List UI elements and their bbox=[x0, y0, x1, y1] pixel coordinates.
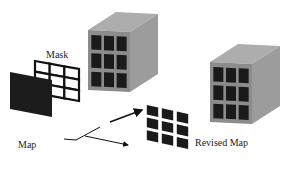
revised-map-cell bbox=[177, 137, 188, 149]
grid-cell bbox=[91, 72, 101, 87]
revised-map-cell bbox=[162, 108, 173, 120]
cube-front-grid bbox=[213, 67, 248, 120]
cube-front-grid bbox=[91, 35, 126, 88]
grid-cell bbox=[239, 105, 249, 120]
grid-cell bbox=[226, 68, 236, 83]
grid-cell bbox=[213, 85, 223, 100]
grid-cell bbox=[91, 35, 101, 50]
grid-cell bbox=[117, 73, 127, 88]
grid-cell bbox=[104, 36, 114, 51]
grid-cell bbox=[213, 67, 223, 82]
grid-cell bbox=[213, 104, 223, 119]
diagram-canvas: Mask Map Revised Map bbox=[0, 0, 294, 172]
arrow-down bbox=[85, 136, 128, 145]
grid-cell bbox=[239, 68, 249, 83]
mask-cell bbox=[64, 88, 79, 101]
revised-map-cell bbox=[162, 121, 173, 133]
arrows bbox=[64, 105, 142, 145]
grid-cell bbox=[226, 86, 236, 101]
mask-label: Mask bbox=[46, 49, 68, 60]
grid-cell bbox=[239, 87, 249, 102]
grid-cell bbox=[117, 55, 127, 70]
revised-map-cell bbox=[162, 134, 173, 146]
grid-cell bbox=[104, 72, 114, 87]
grid-cell bbox=[117, 36, 127, 51]
map-label: Map bbox=[18, 139, 36, 150]
revised-map-cell bbox=[147, 105, 158, 117]
arrow-to-revised-map bbox=[110, 110, 142, 122]
revised-map-label: Revised Map bbox=[195, 137, 248, 148]
revised-map-cell bbox=[147, 118, 158, 130]
revised-map-cell bbox=[177, 124, 188, 136]
grid-cell bbox=[104, 54, 114, 69]
input-cube bbox=[88, 12, 158, 92]
revised-map-cell bbox=[147, 130, 158, 142]
revised-map-grid bbox=[147, 105, 188, 149]
output-cube bbox=[210, 44, 280, 124]
revised-map-cell bbox=[177, 112, 188, 124]
grid-cell bbox=[91, 53, 101, 68]
grid-cell bbox=[226, 104, 236, 119]
